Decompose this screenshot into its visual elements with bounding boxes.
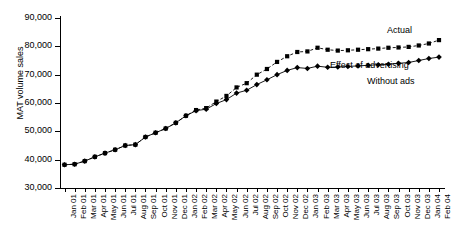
x-tick-mark bbox=[156, 188, 157, 192]
x-tick-mark bbox=[277, 188, 278, 192]
x-tick-mark bbox=[237, 188, 238, 192]
x-tick-mark bbox=[115, 188, 116, 192]
data-point-marker bbox=[174, 121, 178, 125]
data-point-marker bbox=[245, 81, 249, 85]
data-point-marker bbox=[184, 114, 188, 118]
x-tick-label: Mar 01 bbox=[89, 194, 98, 219]
x-tick-label: Oct 01 bbox=[160, 194, 169, 218]
data-point-marker bbox=[295, 50, 299, 54]
y-axis-line bbox=[60, 16, 61, 189]
data-point-marker bbox=[427, 41, 431, 45]
data-point-marker bbox=[183, 113, 189, 119]
x-tick-mark bbox=[257, 188, 258, 192]
x-tick-label: Feb 04 bbox=[443, 194, 452, 219]
y-tick-label: 60,000 bbox=[0, 97, 52, 107]
data-point-marker bbox=[336, 48, 340, 52]
data-point-marker bbox=[163, 126, 169, 132]
x-tick-mark bbox=[206, 188, 207, 192]
x-tick-mark bbox=[399, 188, 400, 192]
data-point-marker bbox=[73, 162, 77, 166]
x-tick-label: Oct 03 bbox=[403, 194, 412, 218]
data-point-marker bbox=[143, 135, 147, 139]
data-point-marker bbox=[82, 158, 88, 164]
y-tick-label: 40,000 bbox=[0, 154, 52, 164]
data-point-marker bbox=[153, 131, 157, 135]
x-tick-mark bbox=[368, 188, 369, 192]
x-tick-label: Jan 02 bbox=[190, 194, 199, 218]
x-tick-label: Aug 02 bbox=[261, 194, 270, 219]
data-point-marker bbox=[122, 143, 128, 149]
data-point-marker bbox=[173, 120, 179, 126]
data-point-marker bbox=[426, 56, 432, 62]
x-tick-mark bbox=[378, 188, 379, 192]
x-tick-label: May 03 bbox=[352, 194, 361, 220]
x-tick-label: Apr 03 bbox=[342, 194, 351, 218]
x-tick-label: Nov 03 bbox=[413, 194, 422, 219]
x-tick-label: Feb 02 bbox=[200, 194, 209, 219]
data-point-marker bbox=[224, 94, 228, 98]
y-tick-mark bbox=[55, 75, 60, 76]
data-point-marker bbox=[194, 108, 198, 112]
x-tick-label: Jun 03 bbox=[362, 194, 371, 218]
data-point-marker bbox=[315, 63, 321, 69]
x-tick-label: Sep 02 bbox=[271, 194, 280, 219]
x-tick-mark bbox=[247, 188, 248, 192]
data-point-marker bbox=[164, 126, 168, 130]
x-tick-mark bbox=[125, 188, 126, 192]
data-point-marker bbox=[366, 47, 370, 51]
x-tick-mark bbox=[95, 188, 96, 192]
data-point-marker bbox=[416, 58, 422, 64]
y-tick-mark bbox=[55, 131, 60, 132]
x-tick-mark bbox=[226, 188, 227, 192]
data-point-marker bbox=[417, 43, 421, 47]
data-point-marker bbox=[214, 99, 218, 103]
x-tick-mark bbox=[439, 188, 440, 192]
x-tick-mark bbox=[388, 188, 389, 192]
data-point-marker bbox=[315, 46, 319, 50]
x-tick-mark bbox=[105, 188, 106, 192]
y-tick-mark bbox=[55, 160, 60, 161]
data-point-marker bbox=[92, 154, 98, 160]
data-point-marker bbox=[265, 67, 269, 71]
x-tick-mark bbox=[267, 188, 268, 192]
data-point-marker bbox=[326, 48, 330, 52]
x-tick-mark bbox=[328, 188, 329, 192]
data-point-marker bbox=[386, 46, 390, 50]
x-tick-label: Dec 02 bbox=[301, 194, 310, 219]
data-point-marker bbox=[143, 134, 149, 140]
data-point-marker bbox=[275, 60, 279, 64]
y-tick-label: 90,000 bbox=[0, 12, 52, 22]
data-point-marker bbox=[234, 85, 238, 89]
data-point-marker bbox=[234, 90, 240, 96]
x-tick-mark bbox=[166, 188, 167, 192]
series-line-without-ads bbox=[65, 57, 440, 165]
x-tick-label: Oct 02 bbox=[281, 194, 290, 218]
data-point-marker bbox=[305, 49, 309, 53]
data-point-marker bbox=[83, 159, 87, 163]
data-point-marker bbox=[204, 106, 208, 110]
x-tick-mark bbox=[65, 188, 66, 192]
x-tick-label: Feb 03 bbox=[322, 194, 331, 219]
x-tick-label: Jul 03 bbox=[372, 194, 381, 215]
data-point-marker bbox=[254, 82, 260, 88]
data-point-marker bbox=[285, 54, 289, 58]
x-tick-label: Jul 02 bbox=[251, 194, 260, 215]
x-tick-mark bbox=[216, 188, 217, 192]
x-tick-label: Apr 02 bbox=[220, 194, 229, 218]
x-tick-mark bbox=[196, 188, 197, 192]
data-point-marker bbox=[437, 38, 441, 42]
x-tick-label: Apr 01 bbox=[99, 194, 108, 218]
y-tick-mark bbox=[55, 188, 60, 189]
data-point-marker bbox=[113, 148, 117, 152]
chart-container: MAT volume sales 30,00040,00050,00060,00… bbox=[0, 0, 455, 242]
x-tick-mark bbox=[409, 188, 410, 192]
x-tick-label: Dec 01 bbox=[180, 194, 189, 219]
x-tick-label: Sep 01 bbox=[149, 194, 158, 219]
y-axis-title: MAT volume sales bbox=[15, 8, 25, 158]
data-point-marker bbox=[112, 147, 118, 153]
data-point-marker bbox=[214, 101, 220, 107]
data-point-marker bbox=[103, 151, 107, 155]
data-point-marker bbox=[203, 106, 209, 112]
x-tick-label: Jun 02 bbox=[241, 194, 250, 218]
data-point-marker bbox=[193, 108, 199, 114]
